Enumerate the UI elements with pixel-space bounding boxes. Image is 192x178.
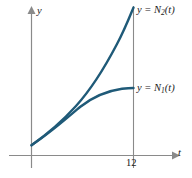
x-axis-tick-label-12: 12 [126,158,137,169]
curve-label-n2-prefix: y = N [137,4,161,15]
curve-n2 [32,8,134,146]
curve-label-n1: y = N1(t) [137,83,175,94]
curve-label-n2-suffix: (t) [165,4,175,15]
figure-container: y t 12 y = N2(t) y = N1(t) [0,0,192,178]
y-axis-label: y [37,6,42,17]
y-axis-arrowhead [28,6,36,14]
x-axis [9,152,180,160]
curve-label-n1-suffix: (t) [165,82,175,93]
t-axis-label: t [178,148,181,159]
curve-label-n1-prefix: y = N [137,82,161,93]
curve-label-n2: y = N2(t) [137,5,175,16]
